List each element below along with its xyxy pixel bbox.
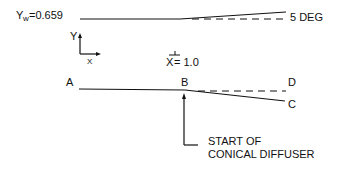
point-a-label: A [66, 76, 74, 88]
x-axis-arrow-icon [96, 52, 101, 56]
y-axis-label: Y [70, 30, 78, 42]
annotation-line-1: START OF [208, 135, 261, 147]
top-wall-diverging [180, 12, 286, 19]
start-arrow-head-icon [182, 93, 186, 99]
bottom-wall-diverging-bc [185, 90, 285, 101]
bottom-wall-straight-ab [79, 89, 185, 90]
station-x-value: = 1.0 [174, 56, 199, 68]
x-axis-label: X [87, 57, 93, 66]
angle-label: 5 DEG [290, 11, 323, 23]
y-axis-arrow-icon [78, 33, 82, 38]
point-b-label: B [181, 76, 188, 88]
wall-radius-label-value: =0.659 [29, 9, 63, 21]
annotation-line-2: CONICAL DIFFUSER [208, 148, 315, 160]
point-c-label: C [288, 98, 296, 110]
station-x-label: X [166, 56, 174, 68]
point-d-label: D [288, 76, 296, 88]
wall-radius-label-subscript: w [22, 14, 29, 23]
diffuser-diagram: Y w =0.659 5 DEG Y X X = 1.0 A B D C STA… [0, 0, 360, 169]
